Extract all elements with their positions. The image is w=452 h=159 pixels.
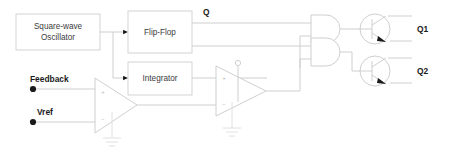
signal-label-q2: Q2 (417, 66, 429, 76)
comparator-plus-sign: + (222, 75, 226, 81)
wire-comparator-to-and2-input2 (266, 59, 311, 91)
circuit-schematic-canvas: Square-wave Oscillator Flip-Flop Integra… (0, 0, 452, 159)
block-square-wave-oscillator[interactable]: Square-wave Oscillator (16, 14, 100, 50)
and-gate-2[interactable] (311, 38, 340, 66)
oscillator-label-line2: Oscillator (41, 33, 75, 42)
feedback-label: Feedback (30, 74, 69, 84)
vref-label: Vref (37, 107, 53, 117)
block-flip-flop[interactable]: Flip-Flop (120, 11, 192, 53)
comparator-triangle (216, 66, 266, 116)
flipflop-label: Flip-Flop (144, 28, 176, 37)
signal-label-q: Q (203, 7, 210, 17)
opamp-minus-sign: − (101, 116, 105, 122)
transistor-q2[interactable] (360, 56, 390, 86)
oscillator-label-line1: Square-wave (34, 22, 83, 31)
wire-comparator-to-and1-input2 (300, 36, 311, 68)
opamp-plus-sign: + (101, 89, 105, 95)
input-terminals: Feedback Vref (30, 74, 69, 125)
transistor-q1[interactable] (360, 14, 390, 44)
vref-terminal-dot[interactable] (30, 119, 36, 125)
block-integrator[interactable]: Integrator (120, 62, 192, 95)
and-gate-2-body (311, 38, 340, 66)
signal-label-q1: Q1 (417, 24, 429, 34)
oscillator-box (16, 14, 100, 50)
wire-osc-branch-to-integrator (113, 32, 120, 78)
feedback-terminal-dot[interactable] (30, 86, 36, 92)
integrator-label: Integrator (142, 74, 177, 83)
comparator-minus-sign: − (222, 101, 226, 107)
circuit-diagram: Square-wave Oscillator Flip-Flop Integra… (0, 0, 452, 159)
output-comparator[interactable]: + − (216, 60, 266, 136)
